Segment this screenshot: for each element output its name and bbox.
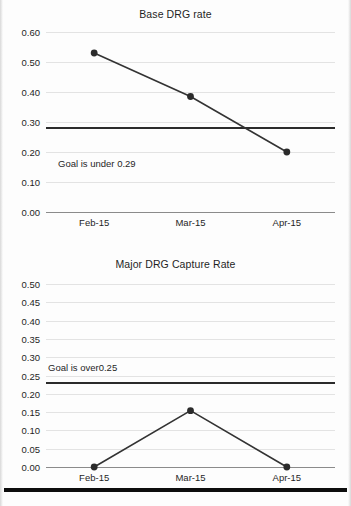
series-line	[46, 284, 335, 467]
y-axis-tick-label: 0.50	[22, 57, 41, 68]
y-axis-tick-label: 0.25	[22, 370, 41, 381]
y-axis-tick-label: 0.15	[22, 407, 41, 418]
y-axis-tick-label: 0.30	[22, 117, 41, 128]
data-line	[94, 53, 287, 152]
data-point-marker	[187, 407, 194, 414]
y-axis-tick-label: 0.10	[22, 177, 41, 188]
x-axis-tick-label: Feb-15	[79, 472, 109, 483]
y-axis-tick-label: 0.20	[22, 147, 41, 158]
x-axis-tick-label: Apr-15	[273, 217, 302, 228]
report-page: Base DRG rate 0.000.100.200.300.400.500.…	[0, 0, 351, 506]
footer-rule	[4, 488, 347, 492]
data-line	[94, 411, 287, 467]
data-point-marker	[187, 93, 194, 100]
data-point-marker	[91, 464, 98, 471]
plot-area: 0.000.050.100.150.200.250.300.350.400.45…	[46, 284, 335, 467]
y-axis-tick-label: 0.00	[22, 462, 41, 473]
data-point-marker	[283, 149, 290, 156]
y-axis-tick-label: 0.20	[22, 388, 41, 399]
y-axis-tick-label: 0.40	[22, 87, 41, 98]
y-axis-tick-label: 0.00	[22, 207, 41, 218]
chart-major-drg-capture-rate: Major DRG Capture Rate 0.000.050.100.150…	[0, 253, 351, 478]
x-axis-labels: Feb-15Mar-15Apr-15	[46, 217, 335, 233]
data-point-marker	[91, 50, 98, 57]
y-axis-tick-label: 0.40	[22, 315, 41, 326]
chart-base-drg-rate: Base DRG rate 0.000.100.200.300.400.500.…	[0, 0, 351, 245]
y-axis-tick-label: 0.60	[22, 27, 41, 38]
x-axis-tick-label: Mar-15	[175, 472, 205, 483]
y-axis-tick-label: 0.50	[22, 279, 41, 290]
y-axis-tick-label: 0.30	[22, 352, 41, 363]
x-axis-baseline: 0.00	[46, 467, 335, 468]
series-line	[46, 32, 335, 212]
x-axis-labels: Feb-15Mar-15Apr-15	[46, 472, 335, 488]
y-axis-tick-label: 0.10	[22, 425, 41, 436]
x-axis-tick-label: Mar-15	[175, 217, 205, 228]
plot-area: 0.000.100.200.300.400.500.60 Goal is und…	[46, 32, 335, 212]
x-axis-tick-label: Apr-15	[273, 472, 302, 483]
x-axis-baseline: 0.00	[46, 212, 335, 213]
x-axis-tick-label: Feb-15	[79, 217, 109, 228]
data-point-marker	[283, 464, 290, 471]
y-axis-tick-label: 0.35	[22, 333, 41, 344]
chart-title: Major DRG Capture Rate	[0, 258, 351, 270]
chart-title: Base DRG rate	[0, 8, 351, 20]
y-axis-tick-label: 0.05	[22, 443, 41, 454]
y-axis-tick-label: 0.45	[22, 297, 41, 308]
